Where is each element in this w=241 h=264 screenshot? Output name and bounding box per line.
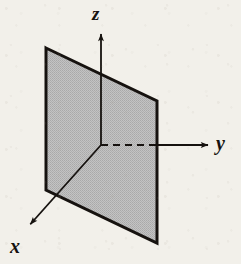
- axis-label-z: z: [92, 4, 99, 23]
- axis-label-x: x: [10, 236, 20, 256]
- coordinate-plane-diagram: [0, 0, 241, 264]
- figure-canvas: z y x: [0, 0, 241, 264]
- axis-label-y: y: [216, 133, 225, 153]
